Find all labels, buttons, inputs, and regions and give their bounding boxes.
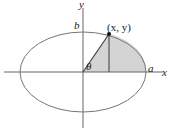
- y-axis-label: y: [78, 0, 84, 10]
- angle-label: θ: [86, 60, 92, 72]
- ellipse-diagram: y x b a (x, y) θ: [0, 0, 171, 129]
- a-label: a: [148, 62, 154, 74]
- b-label: b: [74, 19, 80, 31]
- point-label: (x, y): [107, 21, 131, 34]
- shaded-region: [83, 34, 146, 73]
- x-axis-label: x: [161, 66, 167, 78]
